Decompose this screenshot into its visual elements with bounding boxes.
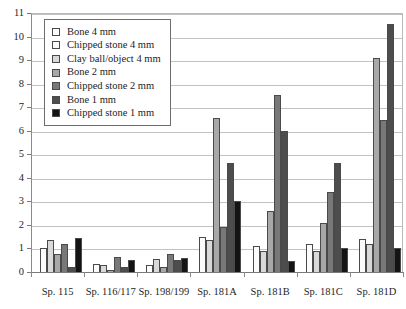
x-tick-label: Sp. 181D bbox=[357, 286, 397, 297]
y-tick-label: 3 bbox=[19, 196, 24, 207]
x-tick-label: Sp. 115 bbox=[42, 286, 74, 297]
bar-group bbox=[190, 13, 243, 272]
bar bbox=[40, 248, 47, 272]
y-tick-label: 1 bbox=[19, 243, 24, 254]
bar bbox=[366, 244, 373, 272]
bar bbox=[260, 251, 267, 272]
legend-item: Clay ball/object 4 mm bbox=[52, 52, 161, 66]
bar bbox=[320, 223, 327, 272]
bar bbox=[327, 192, 334, 272]
legend-item-label: Bone 4 mm bbox=[67, 27, 116, 38]
legend-swatch-icon bbox=[52, 69, 60, 77]
legend-item-label: Chipped stone 2 mm bbox=[67, 81, 154, 92]
legend-item-label: Chipped stone 1 mm bbox=[67, 108, 154, 119]
bar bbox=[306, 244, 313, 272]
legend-swatch-icon bbox=[52, 28, 60, 36]
bar bbox=[341, 248, 348, 272]
bar bbox=[128, 260, 135, 272]
x-tick-label: Sp. 116/117 bbox=[86, 286, 136, 297]
bar bbox=[267, 211, 274, 272]
legend-item: Chipped stone 4 mm bbox=[52, 39, 161, 53]
x-tick-mark bbox=[137, 272, 138, 277]
legend-item-label: Bone 2 mm bbox=[67, 67, 116, 78]
bar bbox=[54, 254, 61, 272]
legend-swatch-icon bbox=[52, 41, 60, 49]
bar-group bbox=[350, 13, 403, 272]
legend-swatch-icon bbox=[52, 82, 60, 90]
y-tick-label: 11 bbox=[14, 8, 24, 19]
y-tick-label: 7 bbox=[19, 102, 24, 113]
bar bbox=[206, 240, 213, 272]
x-tick-label: Sp. 198/199 bbox=[138, 286, 189, 297]
bar bbox=[359, 239, 366, 272]
bar-group bbox=[297, 13, 350, 272]
bar bbox=[253, 246, 260, 272]
bar bbox=[394, 248, 401, 272]
bar bbox=[61, 244, 68, 272]
legend-swatch-icon bbox=[52, 55, 60, 63]
x-tick-mark bbox=[84, 272, 85, 277]
legend-item-label: Bone 1 mm bbox=[67, 95, 116, 106]
legend-item: Bone 2 mm bbox=[52, 66, 161, 80]
bar bbox=[227, 163, 234, 272]
bar bbox=[199, 237, 206, 272]
x-tick-mark bbox=[350, 272, 351, 277]
y-tick-label: 4 bbox=[19, 173, 24, 184]
x-tick-mark bbox=[297, 272, 298, 277]
legend-swatch-icon bbox=[52, 109, 60, 117]
bar bbox=[146, 265, 153, 272]
bar bbox=[234, 201, 241, 272]
x-tick-label: Sp. 181A bbox=[197, 286, 237, 297]
x-tick-label: Sp. 181B bbox=[251, 286, 290, 297]
legend-item: Bone 4 mm bbox=[52, 25, 161, 39]
x-tick-label: Sp. 181C bbox=[304, 286, 343, 297]
y-tick-label: 0 bbox=[19, 267, 24, 278]
bar bbox=[274, 95, 281, 272]
bar bbox=[334, 163, 341, 272]
y-tick-label: 8 bbox=[19, 78, 24, 89]
y-tick-label: 2 bbox=[19, 220, 24, 231]
bar bbox=[281, 131, 288, 272]
bar bbox=[181, 258, 188, 272]
legend-item: Chipped stone 1 mm bbox=[52, 107, 161, 121]
bar bbox=[75, 238, 82, 272]
bar bbox=[313, 251, 320, 272]
bar bbox=[93, 264, 100, 272]
y-tick-label: 9 bbox=[19, 55, 24, 66]
x-tick-mark bbox=[31, 272, 32, 277]
bar-group bbox=[244, 13, 297, 272]
legend: Bone 4 mmChipped stone 4 mmClay ball/obj… bbox=[44, 19, 171, 126]
x-tick-mark bbox=[403, 272, 404, 277]
bar bbox=[100, 265, 107, 272]
bar bbox=[153, 259, 160, 272]
legend-swatch-icon bbox=[52, 96, 60, 104]
bar bbox=[174, 260, 181, 272]
legend-item: Chipped stone 2 mm bbox=[52, 79, 161, 93]
y-tick-label: 10 bbox=[14, 31, 25, 42]
bar bbox=[387, 24, 394, 272]
bar bbox=[288, 261, 295, 272]
bar bbox=[380, 120, 387, 272]
y-tick-label: 5 bbox=[19, 149, 24, 160]
bar-chart: 01234567891011 Sp. 115Sp. 116/117Sp. 198… bbox=[0, 0, 406, 309]
bar bbox=[213, 118, 220, 272]
bar bbox=[167, 254, 174, 272]
legend-item-label: Chipped stone 4 mm bbox=[67, 40, 154, 51]
x-axis: Sp. 115Sp. 116/117Sp. 198/199Sp. 181ASp.… bbox=[31, 272, 403, 309]
bar bbox=[47, 240, 54, 272]
x-tick-mark bbox=[190, 272, 191, 277]
y-axis: 01234567891011 bbox=[0, 0, 31, 285]
legend-item-label: Clay ball/object 4 mm bbox=[67, 54, 161, 65]
x-tick-mark bbox=[244, 272, 245, 277]
x-axis-line bbox=[31, 272, 403, 273]
bar bbox=[114, 257, 121, 272]
legend-item: Bone 1 mm bbox=[52, 93, 161, 107]
bar bbox=[373, 58, 380, 272]
bar bbox=[220, 227, 227, 272]
y-tick-label: 6 bbox=[19, 125, 24, 136]
